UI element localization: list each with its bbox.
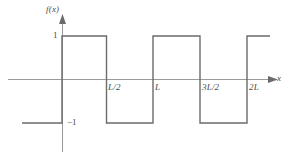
y-tick-label-minus-one: −1 (67, 118, 77, 127)
x-axis-label: x (277, 74, 281, 83)
x-tick-label-l: L (155, 83, 160, 92)
x-tick-label-two-l: 2L (249, 83, 259, 92)
square-wave-figure: f(x) x 1 −1 L/2 L 3L/2 2L (0, 0, 289, 155)
y-axis-label: f(x) (46, 5, 59, 14)
figure-canvas (0, 0, 289, 155)
y-tick-label-one: 1 (53, 31, 58, 40)
x-tick-label-half-l: L/2 (108, 83, 121, 92)
x-tick-label-three-half-l: 3L/2 (202, 83, 219, 92)
x-axis (8, 76, 278, 83)
